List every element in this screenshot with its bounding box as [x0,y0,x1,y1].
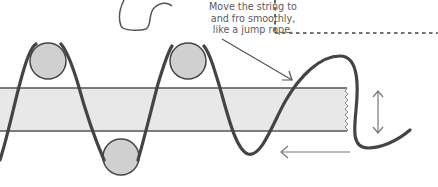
caption-line-2: and fro smoothly, [198,13,308,25]
strip-band [0,88,348,131]
peg-top-right [170,43,206,79]
peg-top-left [30,43,66,79]
caption: Move the string to and fro smoothly, lik… [198,1,308,36]
peg-bottom [103,139,139,175]
left-arrow-icon [281,146,350,158]
pointer-arrow-icon [222,39,292,80]
caption-line-3: like a jump rope. [198,24,308,36]
squiggle-icon [120,0,172,30]
caption-line-1: Move the string to [198,1,308,13]
vertical-double-arrow-icon [373,91,383,133]
